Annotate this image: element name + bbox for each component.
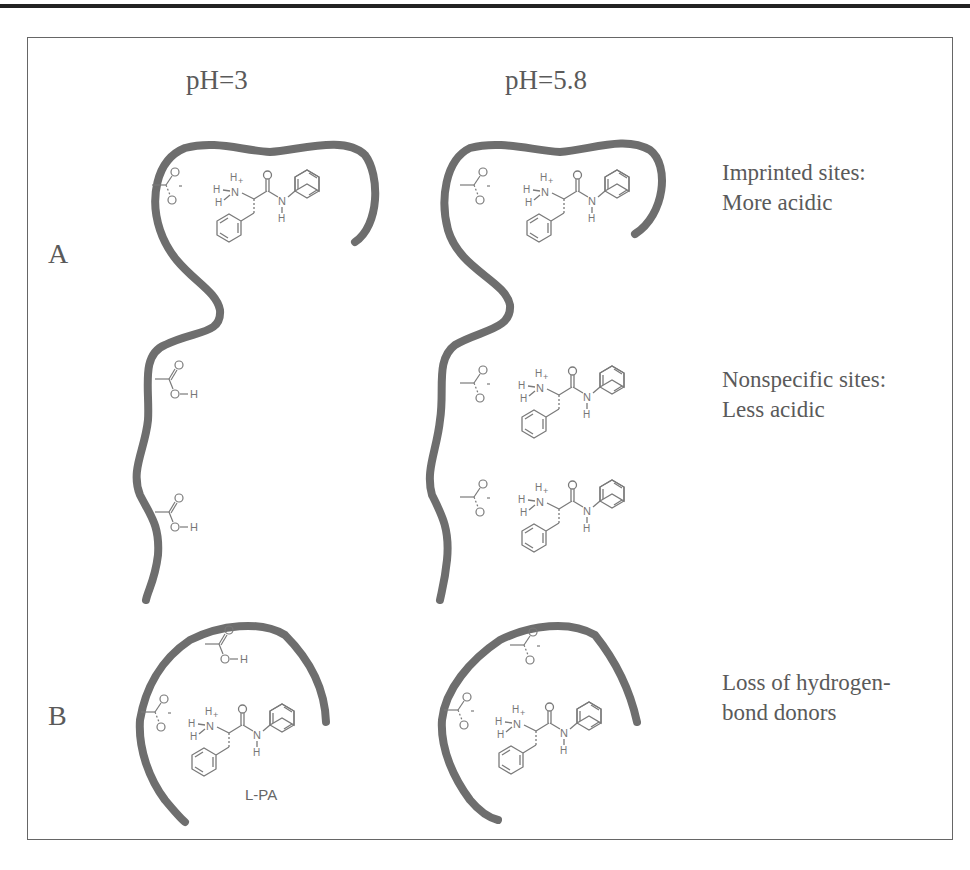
carboxylic-acid-group	[155, 361, 198, 400]
template-molecule-lpa	[213, 170, 319, 242]
bound-molecule-lpa	[495, 702, 601, 774]
bound-molecule-lpa	[523, 170, 629, 242]
nonspecific-bound-lpa	[518, 480, 624, 552]
carboxylate-group	[460, 480, 490, 516]
diagram-artwork: N H + H H N H	[0, 0, 970, 870]
polymer-cavity-b-ph58	[442, 626, 637, 820]
carboxylic-acid-group	[155, 494, 198, 533]
carboxylate-group	[460, 168, 490, 204]
nonspecific-bound-lpa	[518, 366, 624, 438]
template-molecule-lpa	[188, 704, 294, 776]
molecule-label-lpa: L-PA	[245, 786, 277, 803]
polymer-cavity-b-ph3	[140, 626, 326, 822]
carboxylate-group	[460, 366, 490, 402]
